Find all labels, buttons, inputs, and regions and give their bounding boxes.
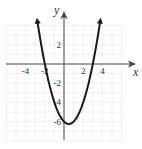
y-axis-label: y: [53, 3, 60, 17]
curve-arrow-left-icon: [35, 18, 41, 24]
parabola-graph: -4-2242-2-4-6 x y: [0, 0, 142, 149]
x-tick-label: 4: [100, 66, 105, 76]
x-axis-label: x: [132, 65, 139, 79]
x-tick-label: 2: [81, 66, 86, 76]
curve-arrow-right-icon: [97, 18, 103, 24]
x-tick-label: -4: [22, 66, 30, 76]
y-tick-label: 2: [57, 40, 62, 50]
y-tick-label: -2: [54, 78, 62, 88]
